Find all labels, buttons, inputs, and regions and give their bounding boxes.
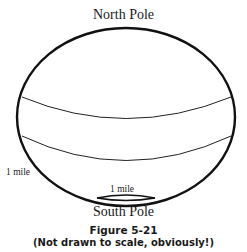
- figure-number: Figure 5-21: [0, 224, 247, 236]
- south-pole-circle: [97, 195, 155, 198]
- south-pole-circle-front: [97, 198, 155, 201]
- south-pole-label: South Pole: [0, 204, 247, 220]
- globe-outline: [17, 28, 235, 206]
- upper-latitude-line: [22, 97, 231, 119]
- lower-latitude-line: [22, 136, 231, 161]
- distance-label-left: 1 mile: [6, 167, 30, 177]
- figure-caption: (Not drawn to scale, obviously!): [0, 237, 247, 248]
- north-pole-label: North Pole: [0, 7, 247, 23]
- distance-label-bottom: 1 mile: [110, 184, 134, 194]
